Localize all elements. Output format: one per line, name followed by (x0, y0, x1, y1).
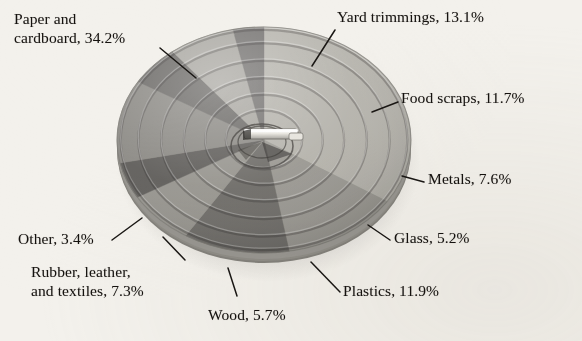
label-paper-line1: Paper and (14, 10, 76, 29)
label-other: Other, 3.4% (18, 230, 94, 249)
label-wood: Wood, 5.7% (208, 306, 286, 325)
label-metals: Metals, 7.6% (428, 170, 511, 189)
pie-chart-figure: Paper and cardboard, 34.2% Yard trimming… (0, 0, 582, 341)
label-rubber-line1: Rubber, leather, (31, 263, 131, 282)
label-glass: Glass, 5.2% (394, 229, 470, 248)
label-food-scraps: Food scraps, 11.7% (401, 89, 525, 108)
pie-sheen (117, 27, 411, 253)
label-plastics: Plastics, 11.9% (343, 282, 439, 301)
label-yard-trimmings: Yard trimmings, 13.1% (337, 8, 484, 27)
label-paper-line2: cardboard, 34.2% (14, 29, 125, 48)
leader-line-other (112, 218, 142, 240)
label-rubber-line2: and textiles, 7.3% (31, 282, 144, 301)
